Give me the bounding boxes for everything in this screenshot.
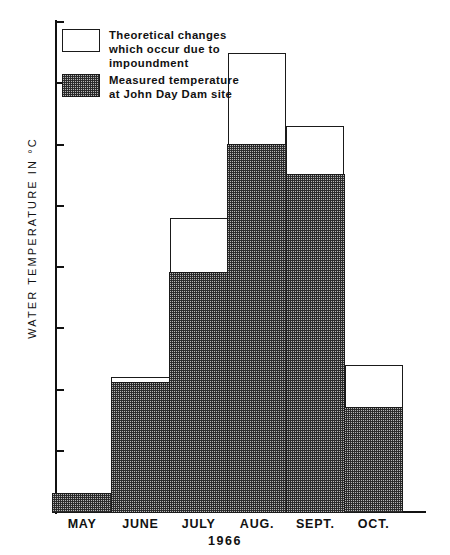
legend-item-theoretical: Theoretical changes which occur due to i…	[62, 28, 302, 70]
legend-label-theoretical-line-2: which occur due to	[109, 42, 227, 56]
x-axis-label-oct: OCT.	[345, 517, 403, 531]
bar-theoretical-july	[170, 218, 228, 512]
x-axis-label-may: MAY	[53, 517, 111, 531]
bar-theoretical-sept	[286, 126, 344, 512]
legend-label-measured-line-2: at John Day Dam site	[109, 87, 239, 101]
bar-measured-may	[52, 493, 111, 513]
chart-legend: Theoretical changes which occur due to i…	[62, 28, 302, 104]
bar-theoretical-june	[111, 377, 169, 512]
x-axis-label-june: JUNE	[111, 517, 169, 531]
legend-label-measured: Measured temperature at John Day Dam sit…	[109, 73, 239, 101]
legend-label-theoretical-line-3: impoundment	[109, 56, 227, 70]
bar-measured-june	[111, 382, 170, 512]
legend-label-theoretical: Theoretical changes which occur due to i…	[109, 28, 227, 70]
y-axis-tick-21	[55, 21, 64, 23]
y-axis-tick-18	[55, 205, 64, 207]
x-axis-label-july: JULY	[170, 517, 228, 531]
y-axis-title: WATER TEMPERATURE IN °C	[26, 108, 38, 368]
bar-measured-oct	[344, 407, 403, 513]
bar-measured-july	[169, 272, 228, 512]
legend-item-measured: Measured temperature at John Day Dam sit…	[62, 73, 302, 101]
bar-theoretical-oct	[345, 365, 403, 512]
y-axis-tick-14	[55, 450, 64, 452]
figure-caption	[28, 549, 428, 555]
bar-measured-sept	[286, 174, 345, 512]
x-axis-label-sept: SEPT.	[286, 517, 344, 531]
y-axis-tick-17	[55, 266, 64, 268]
legend-label-measured-line-1: Measured temperature	[109, 73, 239, 87]
bar-measured-aug	[227, 144, 286, 513]
legend-swatch-theoretical-icon	[62, 29, 100, 52]
y-axis-tick-19	[55, 144, 64, 146]
bar-theoretical-aug	[228, 53, 286, 512]
bar-theoretical-may	[53, 494, 111, 512]
x-axis-year-label: 1966	[0, 534, 450, 548]
legend-label-theoretical-line-1: Theoretical changes	[109, 28, 227, 42]
legend-swatch-measured-icon	[62, 74, 100, 97]
x-axis-label-aug: AUG.	[228, 517, 286, 531]
y-axis-tick-16	[55, 327, 64, 329]
figure-water-temperature-chart: WATER TEMPERATURE IN °C 2120191817161514…	[0, 0, 450, 555]
y-axis-tick-15	[55, 389, 64, 391]
